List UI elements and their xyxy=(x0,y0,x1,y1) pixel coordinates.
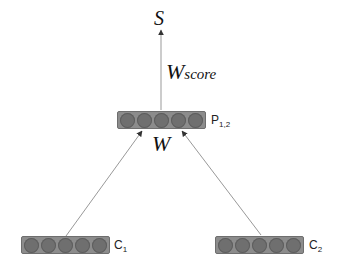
vector-cell xyxy=(235,238,250,253)
parent-vector xyxy=(117,111,206,129)
vector-cell xyxy=(24,238,39,253)
vector-cell xyxy=(41,238,56,253)
parent-label-text: P xyxy=(211,113,219,127)
w-score-symbol: W xyxy=(166,59,184,84)
vector-cell xyxy=(92,238,107,253)
edge-c1-to-p xyxy=(66,131,142,236)
c2-label-subscript: 2 xyxy=(318,245,322,254)
c2-label-text: C xyxy=(309,238,318,252)
child-label-c2: C2 xyxy=(309,239,322,251)
output-symbol: S xyxy=(154,7,164,29)
vector-cell xyxy=(269,238,284,253)
diagram-canvas: S Wscore P1,2 W C1 C2 xyxy=(0,0,337,268)
c1-label-text: C xyxy=(114,238,123,252)
child-label-c1: C1 xyxy=(114,239,127,251)
parent-label: P1,2 xyxy=(211,114,230,126)
output-s-label: S xyxy=(154,8,164,28)
w-symbol: W xyxy=(152,131,170,156)
child-vector-c2 xyxy=(215,236,304,254)
vector-cell xyxy=(154,113,169,128)
w-composition-label: W xyxy=(152,133,170,155)
vector-cell xyxy=(137,113,152,128)
c1-label-subscript: 1 xyxy=(123,245,127,254)
vector-cell xyxy=(188,113,203,128)
vector-cell xyxy=(171,113,186,128)
parent-label-subscript: 1,2 xyxy=(219,120,230,129)
w-score-label: Wscore xyxy=(166,61,216,83)
edge-c2-to-p xyxy=(182,131,261,235)
vector-cell xyxy=(252,238,267,253)
vector-cell xyxy=(286,238,301,253)
vector-cell xyxy=(58,238,73,253)
vector-cell xyxy=(75,238,90,253)
vector-cell xyxy=(218,238,233,253)
child-vector-c1 xyxy=(21,236,110,254)
vector-cell xyxy=(120,113,135,128)
w-score-subscript: score xyxy=(184,66,216,82)
